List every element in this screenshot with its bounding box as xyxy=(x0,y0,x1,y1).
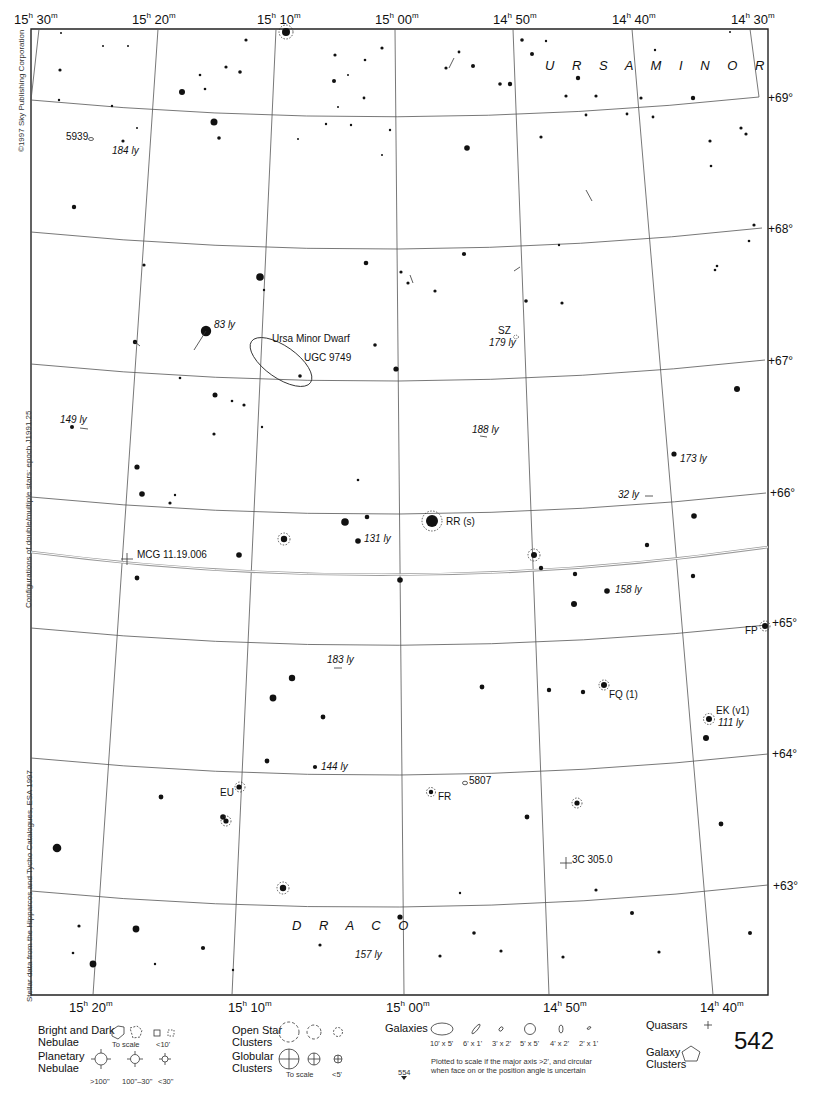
variable-star-label: EK (v1) xyxy=(716,706,749,716)
legend-quasars: Quasars xyxy=(646,1019,688,1031)
legend-pn-size: 100"–30" xyxy=(122,1077,152,1086)
distance-label: 179 ly xyxy=(489,338,516,348)
ra-label-top: 15h 10m xyxy=(257,13,301,26)
legend-gal-size: 2' x 1' xyxy=(579,1039,598,1048)
distance-label: 157 ly xyxy=(355,950,382,960)
ra-label-bottom: 14h 50m xyxy=(543,1001,587,1014)
legend-planetary: Planetary Nebulae xyxy=(38,1050,84,1074)
legend-gal-size: 6' x 1' xyxy=(463,1039,482,1048)
legend-gal-size: 3' x 2' xyxy=(492,1039,511,1048)
galaxy-5939-symbol xyxy=(89,138,94,141)
variable-star-label: RR (s) xyxy=(446,517,475,527)
ra-label-top: 15h 20m xyxy=(132,13,176,26)
legend-gal-size: 10' x 5' xyxy=(430,1039,453,1048)
adjacent-page-link[interactable]: 554 xyxy=(398,1068,411,1077)
ra-label-top: 14h 40m xyxy=(612,13,656,26)
constellation-ursa-minor: U R S A M I N O R xyxy=(545,59,771,72)
galaxy-5807-symbol xyxy=(463,781,468,785)
ra-label-top: 14h 50m xyxy=(493,13,537,26)
distance-label: 32 ly xyxy=(618,490,639,500)
dec-label: +67° xyxy=(768,355,793,367)
ra-label-bottom: 15h 00m xyxy=(386,1001,430,1014)
dec-label: +66° xyxy=(770,487,795,499)
galaxy-label: 5807 xyxy=(469,776,491,786)
ra-label-top: 14h 30m xyxy=(731,13,775,26)
variable-star-label: FQ (1) xyxy=(609,690,638,700)
galaxy-label: UGC 9749 xyxy=(304,353,351,363)
ra-label-top: 15h 30m xyxy=(14,13,58,26)
distance-label: 184 ly xyxy=(112,146,139,156)
legend-pn-size: >100" xyxy=(90,1077,110,1086)
stars xyxy=(53,28,768,971)
variable-star-label: EU xyxy=(220,788,234,798)
legend-gc-scale: To scale xyxy=(286,1070,314,1079)
ra-label-bottom: 15h 10m xyxy=(228,1001,272,1014)
constellation-draco: D R A C O xyxy=(292,919,415,932)
double-star-markers xyxy=(80,58,653,668)
variable-star-label: FP xyxy=(745,626,758,636)
legend-nebulae-small: <10' xyxy=(156,1040,170,1049)
quasar-symbols xyxy=(121,553,572,869)
distance-label: 158 ly xyxy=(615,585,642,595)
dec-label: +63° xyxy=(773,880,798,892)
distance-label: 183 ly xyxy=(327,655,354,665)
dec-label: +65° xyxy=(772,617,797,629)
legend-galaxies: Galaxies xyxy=(385,1022,428,1034)
distance-label: 111 ly xyxy=(718,718,743,728)
star-chart-map xyxy=(0,0,814,1102)
legend-open-clusters: Open Star Clusters xyxy=(232,1024,282,1048)
stellar-data-credit: Stellar data from the Hipparcos and Tych… xyxy=(25,770,34,1002)
legend-gal-size: 4' x 2' xyxy=(550,1039,569,1048)
legend-gal-size: 5' x 5' xyxy=(520,1039,539,1048)
galaxy-label: Ursa Minor Dwarf xyxy=(272,334,350,344)
ra-label-bottom: 14h 40m xyxy=(700,1001,744,1014)
distance-label: 149 ly xyxy=(60,415,87,425)
legend-pn-size: <30" xyxy=(158,1077,173,1086)
legend-galaxy-clusters: Galaxy Clusters xyxy=(646,1046,686,1070)
page-number: 542 xyxy=(734,1027,774,1055)
dec-label: +69° xyxy=(768,92,793,104)
galaxy-label: 5939 xyxy=(66,132,88,142)
legend-nebulae: Bright and Dark Nebulae xyxy=(38,1024,114,1048)
distance-label: 131 ly xyxy=(364,534,391,544)
distance-label: 173 ly xyxy=(680,454,707,464)
ra-label-bottom: 15h 20m xyxy=(69,1001,113,1014)
legend-globular: Globular Clusters xyxy=(232,1050,274,1074)
distance-label: 144 ly xyxy=(321,762,348,772)
ra-gridlines xyxy=(31,29,759,995)
variable-star-label: SZ xyxy=(498,326,511,336)
distance-label: 83 ly xyxy=(214,320,235,330)
double-stars-note: Configurations of double/multiple stars:… xyxy=(24,411,33,608)
legend-nebulae-scale: To scale xyxy=(112,1040,140,1049)
dec-label: +64° xyxy=(772,748,797,760)
quasar-label: MCG 11.19.006 xyxy=(137,550,207,560)
ra-label-top: 15h 00m xyxy=(375,13,419,26)
copyright-text: ©1997 Sky Publishing Corporation xyxy=(17,30,26,152)
quasar-label: 3C 305.0 xyxy=(572,855,613,865)
variable-star-label: FR xyxy=(438,792,451,802)
distance-label: 188 ly xyxy=(472,425,499,435)
legend-galaxy-note: Plotted to scale if the major axis >2', … xyxy=(431,1057,592,1075)
dec-label: +68° xyxy=(768,223,793,235)
legend-gc-small: <5' xyxy=(332,1070,342,1079)
